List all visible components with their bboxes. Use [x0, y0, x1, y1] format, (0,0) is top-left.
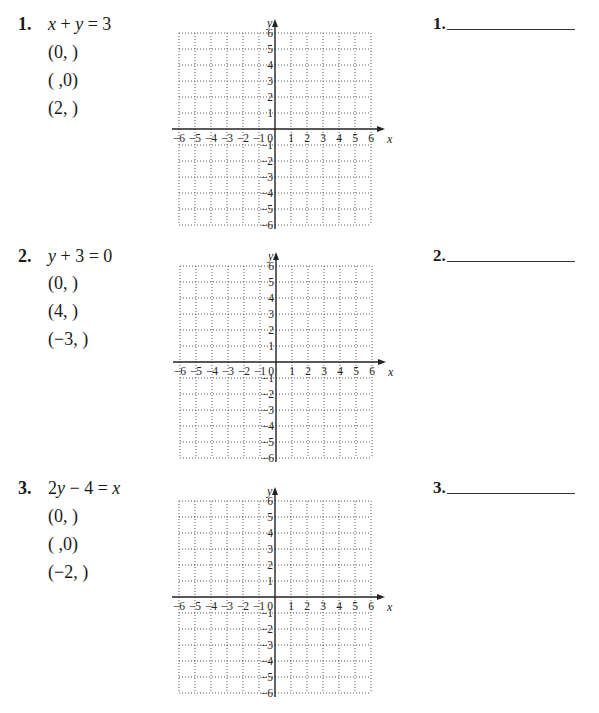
- x-tick-label: −2: [237, 600, 249, 612]
- problem-number: 1.: [18, 14, 32, 35]
- y-tick-label: −5: [261, 203, 273, 215]
- y-tick-label: −3: [261, 639, 273, 651]
- y-tick-label: −1: [261, 607, 273, 619]
- y-tick-label: 3: [267, 75, 273, 87]
- ordered-pair: (0, ): [48, 506, 78, 527]
- x-axis-label: x: [386, 600, 393, 614]
- ordered-pair: ( ,0): [48, 70, 78, 91]
- ordered-pair: (−2, ): [48, 562, 88, 583]
- grid-svg: xy−6−5−4−3−2−10123456123456−1−2−3−4−5−6: [160, 483, 400, 713]
- x-tick-label: 6: [368, 600, 374, 612]
- x-axis-arrow-icon: [377, 126, 385, 132]
- y-tick-label: 4: [267, 527, 273, 539]
- y-tick-label: −2: [261, 623, 273, 635]
- x-tick-label: −5: [190, 365, 202, 377]
- x-axis-label: x: [387, 365, 394, 379]
- ordered-pair: ( ,0): [48, 534, 78, 555]
- x-tick-label: −6: [173, 600, 185, 612]
- x-tick-label: 6: [369, 365, 375, 377]
- ordered-pair: (4, ): [48, 301, 78, 322]
- x-tick-label: −3: [221, 600, 233, 612]
- x-tick-label: −6: [174, 365, 186, 377]
- y-tick-label: 6: [267, 495, 273, 507]
- y-tick-label: −6: [261, 219, 273, 231]
- y-axis-arrow-icon: [272, 19, 278, 27]
- x-tick-label: 1: [288, 132, 294, 144]
- grid-svg: xy−6−5−4−3−2−10123456123456−1−2−3−4−5−6: [161, 248, 401, 478]
- answer-label: 3.: [433, 478, 446, 498]
- answer-label: 1.: [433, 14, 446, 34]
- answer-label: 2.: [433, 246, 446, 266]
- y-tick-label: 6: [268, 260, 274, 272]
- ordered-pair: (0, ): [48, 42, 78, 63]
- y-tick-label: −4: [262, 420, 274, 432]
- y-tick-label: 1: [267, 575, 273, 587]
- x-tick-label: −5: [189, 132, 201, 144]
- x-axis-arrow-icon: [378, 359, 386, 365]
- x-tick-label: 4: [336, 600, 342, 612]
- coordinate-grid[interactable]: xy−6−5−4−3−2−10123456123456−1−2−3−4−5−6: [161, 248, 401, 482]
- y-tick-label: 1: [268, 340, 274, 352]
- y-tick-label: 5: [268, 276, 274, 288]
- x-tick-label: −4: [206, 365, 218, 377]
- x-tick-label: 2: [305, 365, 311, 377]
- problem-number: 2.: [18, 246, 32, 267]
- y-tick-label: −3: [262, 404, 274, 416]
- x-tick-label: 4: [337, 365, 343, 377]
- x-tick-label: 3: [321, 365, 327, 377]
- y-tick-label: 3: [268, 308, 274, 320]
- x-tick-label: 5: [353, 365, 359, 377]
- y-tick-label: −4: [261, 655, 273, 667]
- y-tick-label: 2: [267, 91, 273, 103]
- y-tick-label: −6: [261, 687, 273, 699]
- equation: y + 3 = 0: [48, 246, 112, 267]
- x-tick-label: −5: [189, 600, 201, 612]
- x-tick-label: −4: [205, 600, 217, 612]
- coordinate-grid[interactable]: xy−6−5−4−3−2−10123456123456−1−2−3−4−5−6: [160, 15, 400, 249]
- coordinate-grid[interactable]: xy−6−5−4−3−2−10123456123456−1−2−3−4−5−6: [160, 483, 400, 713]
- x-tick-label: −2: [238, 365, 250, 377]
- ordered-pair: (−3, ): [48, 329, 88, 350]
- y-tick-label: −5: [262, 436, 274, 448]
- y-tick-label: 4: [268, 292, 274, 304]
- y-tick-label: −5: [261, 671, 273, 683]
- x-tick-label: 2: [304, 600, 310, 612]
- x-tick-label: 5: [352, 132, 358, 144]
- y-tick-label: 1: [267, 107, 273, 119]
- x-tick-label: −3: [222, 365, 234, 377]
- x-tick-label: 6: [368, 132, 374, 144]
- y-tick-label: −1: [262, 372, 274, 384]
- x-tick-label: −3: [221, 132, 233, 144]
- x-tick-label: 5: [352, 600, 358, 612]
- x-tick-label: 3: [320, 600, 326, 612]
- y-tick-label: −2: [262, 388, 274, 400]
- grid-svg: xy−6−5−4−3−2−10123456123456−1−2−3−4−5−6: [160, 15, 400, 245]
- y-tick-label: −4: [261, 187, 273, 199]
- y-tick-label: 2: [268, 324, 274, 336]
- x-tick-label: 1: [288, 600, 294, 612]
- x-tick-label: −6: [173, 132, 185, 144]
- x-tick-label: 4: [336, 132, 342, 144]
- y-tick-label: −1: [261, 139, 273, 151]
- x-tick-label: 3: [320, 132, 326, 144]
- x-tick-label: 1: [289, 365, 295, 377]
- y-tick-label: −6: [262, 452, 274, 464]
- x-axis-arrow-icon: [377, 594, 385, 600]
- y-tick-label: −2: [261, 155, 273, 167]
- answer-blank[interactable]: [447, 261, 575, 262]
- x-tick-label: −4: [205, 132, 217, 144]
- equation: x + y = 3: [48, 14, 111, 35]
- y-tick-label: 5: [267, 43, 273, 55]
- y-tick-label: 6: [267, 27, 273, 39]
- x-axis-label: x: [386, 132, 393, 146]
- equation: 2y − 4 = x: [48, 478, 120, 499]
- answer-blank[interactable]: [447, 493, 575, 494]
- answer-blank[interactable]: [447, 29, 575, 30]
- ordered-pair: (2, ): [48, 98, 78, 119]
- y-tick-label: 4: [267, 59, 273, 71]
- y-axis-arrow-icon: [272, 487, 278, 495]
- y-tick-label: −3: [261, 171, 273, 183]
- problem-number: 3.: [18, 478, 32, 499]
- y-axis-arrow-icon: [273, 252, 279, 260]
- x-tick-label: 2: [304, 132, 310, 144]
